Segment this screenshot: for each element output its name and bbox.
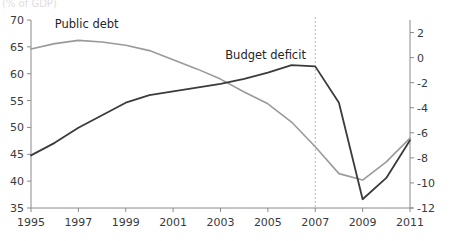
x-axis-tick-label: 1997	[64, 216, 92, 229]
left-axis-tick-label: 60	[10, 68, 24, 81]
x-axis-tick-label: 2011	[396, 216, 424, 229]
left-axis-tick-label: 65	[10, 41, 24, 54]
series-line-budget-deficit	[31, 65, 410, 199]
right-axis-tick-label: 2	[417, 27, 424, 40]
left-axis-tick-label: 40	[10, 175, 24, 188]
left-axis-tick-label: 35	[10, 202, 24, 215]
line-chart: 3540455055606570-12-10-8-6-4-20219951997…	[0, 0, 458, 241]
series-annotation-budget-deficit: Budget deficit	[225, 48, 306, 62]
left-axis-tick-label: 50	[10, 121, 24, 134]
series-annotation-public-debt: Public debt	[55, 17, 119, 31]
left-axis-tick-label: 70	[10, 14, 24, 27]
series-annotations-layer: Public debtBudget deficit	[55, 17, 307, 62]
right-axis-tick-label: -12	[417, 202, 435, 215]
x-axis-tick-label: 2005	[254, 216, 282, 229]
x-axis-tick-label: 2001	[159, 216, 187, 229]
series-layer	[31, 40, 410, 199]
right-axis-tick-label: -2	[417, 77, 428, 90]
left-axis-tick-label: 45	[10, 148, 24, 161]
chart-container: (% of GDP) 3540455055606570-12-10-8-6-4-…	[0, 0, 458, 241]
axes-layer	[27, 20, 414, 212]
right-axis-tick-label: -6	[417, 127, 428, 140]
right-axis-tick-label: -4	[417, 102, 428, 115]
x-axis-tick-label: 2007	[301, 216, 329, 229]
x-axis-tick-label: 2003	[207, 216, 235, 229]
right-axis-tick-label: -8	[417, 152, 428, 165]
right-axis-tick-label: 0	[417, 52, 424, 65]
x-axis-tick-label: 2009	[349, 216, 377, 229]
x-axis-tick-label: 1995	[17, 216, 45, 229]
tick-labels-layer: 3540455055606570-12-10-8-6-4-20219951997…	[10, 14, 435, 229]
left-axis-tick-label: 55	[10, 95, 24, 108]
x-axis-tick-label: 1999	[112, 216, 140, 229]
right-axis-tick-label: -10	[417, 177, 435, 190]
